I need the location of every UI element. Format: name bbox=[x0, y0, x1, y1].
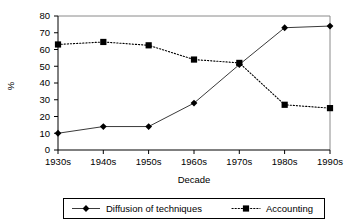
data-series bbox=[55, 23, 334, 137]
x-tick-label: 1950s bbox=[136, 156, 162, 167]
x-axis-tick-labels: 1930s 1940s 1950s 1960s 1970s 1980s 1990… bbox=[45, 156, 343, 167]
y-axis-ticks bbox=[54, 16, 58, 150]
y-tick-label: 60 bbox=[39, 44, 50, 55]
square-marker bbox=[327, 105, 333, 111]
data-series-layer bbox=[55, 23, 334, 137]
dotted-series-line bbox=[58, 42, 330, 108]
diamond-marker bbox=[145, 123, 152, 130]
y-tick-label: 20 bbox=[39, 111, 50, 122]
square-marker bbox=[100, 39, 106, 45]
y-axis-title: % bbox=[5, 81, 16, 90]
diamond-marker bbox=[100, 123, 107, 130]
y-tick-label: 70 bbox=[39, 27, 50, 38]
x-tick-label: 1970s bbox=[226, 156, 252, 167]
legend-label: Diffusion of techniques bbox=[106, 203, 202, 214]
square-marker bbox=[55, 41, 61, 47]
x-tick-label: 1940s bbox=[90, 156, 116, 167]
x-axis-ticks bbox=[58, 150, 330, 154]
square-marker bbox=[243, 205, 249, 211]
square-marker bbox=[282, 102, 288, 108]
y-tick-label: 40 bbox=[39, 77, 50, 88]
x-tick-label: 1990s bbox=[317, 156, 343, 167]
square-marker bbox=[146, 42, 152, 48]
square-marker bbox=[236, 60, 242, 66]
x-tick-label: 1960s bbox=[181, 156, 207, 167]
y-tick-label: 30 bbox=[39, 94, 50, 105]
diamond-marker bbox=[55, 130, 62, 137]
line-chart: 0 10 20 30 40 50 60 70 80 1930s 1940s 19… bbox=[0, 0, 355, 223]
chart-container: 0 10 20 30 40 50 60 70 80 1930s 1940s 19… bbox=[0, 0, 355, 223]
plot-frame bbox=[58, 16, 330, 150]
y-tick-label: 50 bbox=[39, 61, 50, 72]
y-tick-label: 10 bbox=[39, 128, 50, 139]
y-tick-label: 80 bbox=[39, 10, 50, 21]
y-tick-label: 0 bbox=[45, 144, 50, 155]
diamond-marker bbox=[327, 23, 334, 30]
x-tick-label: 1980s bbox=[272, 156, 298, 167]
square-marker bbox=[191, 56, 197, 62]
legend-entries: Diffusion of techniquesAccounting bbox=[72, 203, 313, 214]
y-axis-tick-labels: 0 10 20 30 40 50 60 70 80 bbox=[39, 10, 50, 155]
x-axis-title: Decade bbox=[178, 174, 211, 185]
x-tick-label: 1930s bbox=[45, 156, 71, 167]
legend-label: Accounting bbox=[266, 203, 313, 214]
